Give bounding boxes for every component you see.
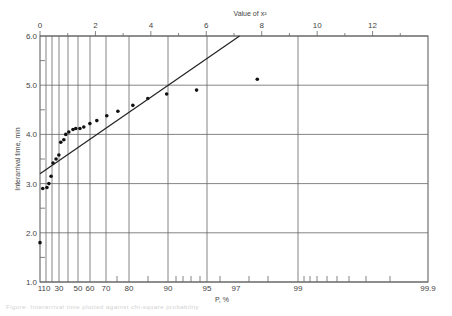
plot-frame [40,36,428,282]
chi-square-probability-chart: 1.02.03.04.05.06.01103050607080909597999… [0,0,452,316]
data-point [195,88,199,92]
x-tick-label: 10 [42,284,51,293]
x-tick-label: 99.9 [420,284,436,293]
x2-axis-title: Value of x² [234,10,268,17]
data-point [54,157,58,161]
y-tick-label: 3.0 [26,180,38,189]
x2-tick-label: 10 [313,21,322,30]
y-tick-label: 1.0 [26,278,38,287]
data-point [64,133,68,137]
x-tick-label: 90 [164,284,173,293]
data-point [95,119,99,123]
x2-tick-label: 4 [149,21,154,30]
x2-tick-label: 0 [38,21,43,30]
x2-tick-label: 6 [204,21,209,30]
data-point [105,114,109,118]
x2-tick-label: 2 [93,21,98,30]
data-point [165,92,169,96]
data-point [38,241,42,245]
data-point [45,186,49,190]
x-tick-label: 30 [55,284,64,293]
data-point [67,130,71,134]
y-tick-label: 5.0 [26,81,38,90]
fitted-line [40,36,240,174]
data-point [116,109,120,113]
data-point [62,138,66,142]
y-tick-label: 4.0 [26,130,38,139]
data-point [41,187,45,191]
x-tick-label: 70 [102,284,111,293]
x-tick-label: 99 [294,284,303,293]
data-point [82,125,86,129]
x2-tick-label: 12 [368,21,377,30]
data-point [74,127,78,131]
data-point [78,127,82,131]
data-point [57,153,61,157]
x-tick-label: 80 [125,284,134,293]
x-tick-label: 60 [86,284,95,293]
figure-caption: Figure: Interarrival time plotted agains… [6,304,199,310]
data-point [131,104,135,108]
data-point [59,140,63,144]
data-point [255,77,259,81]
x-tick-label: 95 [203,284,212,293]
y-tick-label: 2.0 [26,229,38,238]
x-axis-title: P, % [215,296,229,303]
y-axis-title: Interarrival time, min [14,127,21,191]
x2-tick-label: 8 [259,21,264,30]
data-point [88,122,92,126]
data-point [49,174,53,178]
x-tick-label: 50 [74,284,83,293]
x-tick-label: 97 [232,284,241,293]
data-point [47,182,51,186]
y-tick-label: 6.0 [26,32,38,41]
